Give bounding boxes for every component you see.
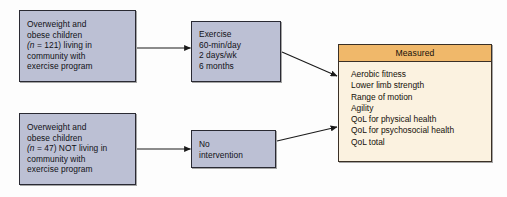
node-control-group-line-3: (n = 47) NOT living in	[27, 143, 128, 154]
node-control-group-line-3-rest: = 47) NOT living in	[35, 143, 108, 153]
measured-item: Aerobic fitness	[351, 69, 491, 80]
measured-item: Agility	[351, 103, 491, 114]
node-intervention-group-line-3-rest: = 121) living in	[35, 40, 92, 50]
node-exercise: Exercise 60-min/day 2 days/wk 6 months	[191, 21, 281, 82]
node-control-group-line-2: obese children	[27, 133, 128, 144]
node-exercise-line-3: 2 days/wk	[199, 50, 273, 61]
node-intervention-group-line-5: exercise program	[27, 61, 128, 72]
measured-item: QoL for psychosocial health	[351, 125, 491, 136]
measured-item: Lower limb strength	[351, 80, 491, 91]
node-intervention-group: Overweight and obese children (n = 121) …	[19, 10, 136, 82]
sample-size-symbol-n: (n	[27, 143, 35, 153]
node-control-group-line-1: Overweight and	[27, 122, 128, 133]
node-exercise-line-2: 60-min/day	[199, 40, 273, 51]
node-intervention-group-line-1: Overweight and	[27, 19, 128, 30]
node-intervention-group-line-4: community with	[27, 51, 128, 62]
measured-outcomes-panel: Measured Aerobic fitness Lower limb stre…	[338, 44, 492, 162]
node-control-group: Overweight and obese children (n = 47) N…	[19, 113, 136, 185]
sample-size-symbol-n: (n	[27, 40, 35, 50]
diagram-canvas: Overweight and obese children (n = 121) …	[0, 0, 507, 197]
measured-item: QoL for physical health	[351, 114, 491, 125]
node-no-intervention-line-1: No	[199, 139, 268, 150]
node-intervention-group-line-3: (n = 121) living in	[27, 40, 128, 51]
measured-item: Range of motion	[351, 92, 491, 103]
arrow-no-intervention-to-measured	[277, 127, 337, 141]
node-no-intervention-line-2: intervention	[199, 150, 268, 161]
node-exercise-line-1: Exercise	[199, 29, 273, 40]
measured-panel-header: Measured	[339, 45, 491, 62]
arrow-exercise-to-measured	[282, 52, 337, 76]
node-control-group-line-5: exercise program	[27, 164, 128, 175]
measured-outcomes-list: Aerobic fitness Lower limb strength Rang…	[339, 62, 491, 148]
node-no-intervention: No intervention	[191, 130, 276, 168]
node-intervention-group-line-2: obese children	[27, 30, 128, 41]
node-exercise-line-4: 6 months	[199, 61, 273, 72]
node-control-group-line-4: community with	[27, 154, 128, 165]
measured-item: QoL total	[351, 137, 491, 148]
